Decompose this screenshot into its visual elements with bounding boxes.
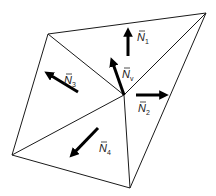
normal-n2: N2 <box>136 95 164 116</box>
normal-subscript: 2 <box>146 109 150 116</box>
normal-nv: Nv <box>112 62 134 95</box>
mesh-edge-center-bottom <box>124 95 130 188</box>
arrow-icon <box>73 128 98 154</box>
normal-n3: N3 <box>48 74 78 92</box>
normal-subscript: 4 <box>107 149 111 156</box>
normal-n4: N4 <box>73 128 111 156</box>
normal-label-n2: N <box>138 102 146 114</box>
mesh-normals-diagram: N1N2N3N4Nv <box>0 0 216 196</box>
normal-subscript: 3 <box>72 81 76 88</box>
normal-label-n4: N <box>99 142 107 154</box>
mesh-edge-bottom-left <box>12 155 130 188</box>
normal-n1: N1 <box>128 31 149 56</box>
normal-label-n1: N <box>137 31 145 43</box>
mesh-edge-top_left-top_right <box>48 13 206 34</box>
normal-subscript: 1 <box>145 38 149 45</box>
normal-subscript: v <box>130 75 134 82</box>
mesh-edge-center-top_right <box>124 13 206 95</box>
mesh-edge-center-left <box>12 95 124 155</box>
normal-vectors: N1N2N3N4Nv <box>48 31 164 156</box>
normal-label-nv: N <box>122 68 130 80</box>
mesh-edge-left-top_left <box>12 34 48 155</box>
normal-label-n3: N <box>64 74 72 86</box>
mesh-edges <box>12 13 206 188</box>
